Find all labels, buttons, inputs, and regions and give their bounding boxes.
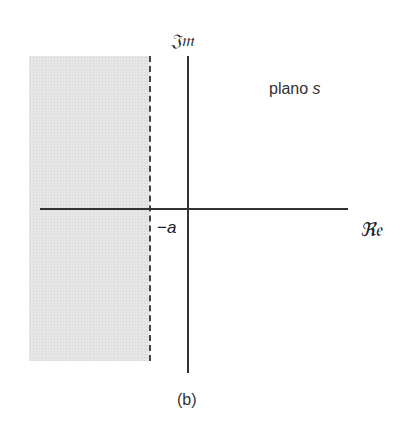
real-axis xyxy=(40,208,348,210)
real-axis-label: ℜ𝔢 xyxy=(360,218,382,241)
negative-a-label: −a xyxy=(157,218,176,238)
imaginary-axis-label: 𝔍𝔪 xyxy=(171,30,194,50)
plane-label-variable: s xyxy=(313,80,321,97)
figure-caption: (b) xyxy=(177,391,197,409)
plane-label: plano s xyxy=(269,80,321,98)
imaginary-axis xyxy=(187,56,189,373)
negative-sign: − xyxy=(157,218,167,237)
a-variable: a xyxy=(167,218,176,237)
plane-label-text: plano xyxy=(269,80,308,97)
